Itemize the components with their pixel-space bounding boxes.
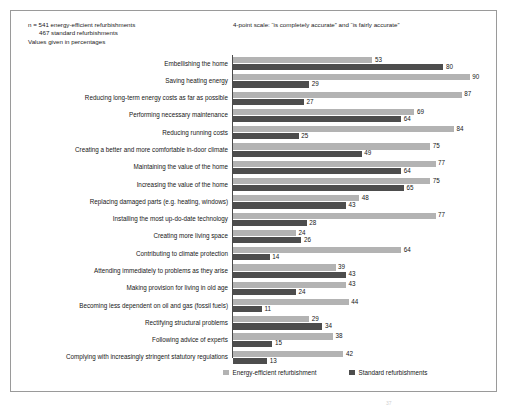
bar-light: [233, 264, 336, 270]
bar-value-label: 64: [404, 116, 411, 122]
bar-value-label: 43: [349, 202, 356, 208]
page-number: 37: [386, 400, 392, 406]
bar-dark: [233, 185, 404, 191]
bar-light: [233, 92, 462, 98]
bar-value-label: 65: [406, 185, 413, 191]
bar-light: [233, 333, 333, 339]
chart-row: Maintaining the value of the home7764: [11, 159, 498, 176]
sample-size-line-1: n = 541 energy-efficient refurbishments: [28, 21, 135, 28]
legend-swatch-icon-standard: [349, 370, 355, 376]
bar-dark: [233, 168, 401, 174]
chart-figure: n = 541 energy-efficient refurbishments …: [10, 10, 497, 392]
bar-value-label: 34: [325, 323, 332, 329]
bar-chart-plot: Embellishing the home5380Saving heating …: [11, 55, 498, 360]
bar-value-label: 77: [438, 160, 445, 166]
bar-value-label: 26: [304, 237, 311, 243]
category-label: Reducing running costs: [162, 129, 228, 137]
bar-light: [233, 247, 401, 253]
category-label: Becoming less dependent on oil and gas (…: [79, 302, 228, 310]
bar-value-label: 11: [264, 306, 271, 312]
bar-value-label: 28: [309, 220, 316, 226]
bar-value-label: 43: [349, 281, 356, 287]
bar-value-label: 39: [338, 264, 345, 270]
bar-dark: [233, 289, 296, 295]
bar-value-label: 15: [275, 340, 282, 346]
bar-dark: [233, 151, 362, 157]
bar-value-label: 69: [417, 109, 424, 115]
bar-dark: [233, 81, 309, 87]
category-label: Reducing long-term energy costs as far a…: [85, 94, 228, 102]
legend-item-energy-efficient: Energy-efficient refurbishment: [223, 369, 316, 376]
category-label: Attending immediately to problems as the…: [94, 267, 228, 275]
bar-light: [233, 109, 414, 115]
bar-value-label: 77: [438, 212, 445, 218]
category-label: Embellishing the home: [164, 60, 228, 68]
bar-dark: [233, 237, 301, 243]
bar-value-label: 48: [362, 195, 369, 201]
bar-light: [233, 316, 309, 322]
chart-row: Creating more living space2426: [11, 228, 498, 245]
bar-value-label: 53: [375, 57, 382, 63]
legend-item-standard: Standard refurbishments: [349, 369, 427, 376]
chart-row: Complying with increasingly stringent st…: [11, 349, 498, 366]
bar-dark: [233, 133, 299, 139]
chart-row: Attending immediately to problems as the…: [11, 262, 498, 279]
chart-row: Saving heating energy9029: [11, 72, 498, 89]
bar-dark: [233, 358, 267, 364]
category-label: Creating a better and more comfortable i…: [75, 146, 228, 154]
bar-value-label: 49: [364, 150, 371, 156]
bar-light: [233, 282, 346, 288]
category-label: Making provision for living in old age: [126, 284, 228, 292]
category-label: Saving heating energy: [165, 77, 228, 85]
legend-swatch-icon-energy-efficient: [223, 370, 229, 376]
bar-light: [233, 195, 359, 201]
bar-value-label: 44: [351, 299, 358, 305]
bar-dark: [233, 341, 272, 347]
category-label: Creating more living space: [153, 232, 228, 240]
bar-value-label: 38: [335, 333, 342, 339]
chart-row: Reducing long-term energy costs as far a…: [11, 90, 498, 107]
category-label: Increasing the value of the home: [137, 181, 228, 189]
sample-size-line-3: Values given in percentages: [28, 38, 105, 45]
category-label: Rectifying structural problems: [145, 319, 228, 327]
bar-dark: [233, 272, 346, 278]
bar-light: [233, 299, 349, 305]
bar-value-label: 75: [433, 143, 440, 149]
bar-light: [233, 143, 430, 149]
bar-light: [233, 74, 470, 80]
bar-light: [233, 126, 454, 132]
bar-dark: [233, 323, 322, 329]
chart-row: Increasing the value of the home7565: [11, 176, 498, 193]
chart-row: Becoming less dependent on oil and gas (…: [11, 297, 498, 314]
sample-size-line-2: 467 standard refurbishments: [28, 29, 135, 37]
category-label: Contributing to climate protection: [136, 250, 228, 258]
bar-value-label: 64: [404, 168, 411, 174]
chart-row: Creating a better and more comfortable i…: [11, 141, 498, 158]
bar-light: [233, 57, 372, 63]
bar-light: [233, 351, 343, 357]
bar-dark: [233, 202, 346, 208]
bar-value-label: 29: [312, 316, 319, 322]
scale-note: 4-point scale: “is completely accurate” …: [233, 21, 399, 29]
bar-value-label: 80: [446, 64, 453, 70]
chart-row: Performing necessary maintenance6964: [11, 107, 498, 124]
bar-value-label: 24: [299, 289, 306, 295]
chart-row: Contributing to climate protection6414: [11, 245, 498, 262]
chart-legend: Energy-efficient refurbishment Standard …: [11, 369, 498, 383]
bar-value-label: 42: [346, 351, 353, 357]
bar-value-label: 84: [456, 126, 463, 132]
bar-dark: [233, 64, 443, 70]
bar-dark: [233, 254, 270, 260]
bar-value-label: 27: [307, 99, 314, 105]
category-label: Maintaining the value of the home: [133, 163, 228, 171]
bar-light: [233, 161, 436, 167]
chart-row: Reducing running costs8425: [11, 124, 498, 141]
legend-label-energy-efficient: Energy-efficient refurbishment: [233, 369, 317, 376]
bar-value-label: 87: [464, 91, 471, 97]
bar-dark: [233, 99, 304, 105]
chart-row: Making provision for living in old age43…: [11, 280, 498, 297]
bar-light: [233, 213, 436, 219]
category-label: Following advice of experts: [152, 336, 228, 344]
bar-dark: [233, 306, 262, 312]
bar-value-label: 13: [270, 358, 277, 364]
